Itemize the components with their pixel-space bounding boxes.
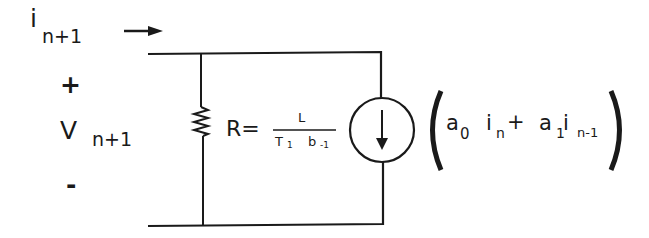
- current-i-n: i: [486, 111, 492, 135]
- right-parenthesis: [611, 91, 620, 170]
- coefficient-a0-subscript: 0: [460, 125, 470, 143]
- denominator-T-subscript: 1: [287, 140, 293, 150]
- denominator-T: T: [275, 134, 283, 149]
- voltage-symbol: V: [60, 116, 77, 145]
- bottom-wire: [148, 162, 383, 226]
- plus-operator: +: [507, 110, 525, 134]
- top-wire: [148, 52, 381, 98]
- current-i-nm1-subscript: n-1: [577, 125, 598, 140]
- current-symbol: i: [30, 4, 37, 33]
- current-arrow-icon: [124, 26, 163, 36]
- denominator-b-subscript: -1: [320, 140, 329, 150]
- coefficient-a1: a: [539, 111, 552, 135]
- voltage-subscript: n+1: [92, 128, 132, 150]
- denominator-b: b: [308, 134, 316, 149]
- coefficient-a0: a: [446, 111, 459, 135]
- current-subscript: n+1: [42, 25, 82, 47]
- minus-sign: -: [66, 170, 76, 199]
- current-i-nm1: i: [563, 111, 569, 135]
- resistor-lhs: R=: [226, 116, 260, 141]
- resistor-icon: [194, 54, 208, 225]
- fraction-numerator: L: [298, 110, 305, 125]
- current-i-n-subscript: n: [496, 125, 505, 141]
- left-parenthesis: [433, 91, 442, 170]
- plus-sign: +: [60, 70, 81, 99]
- current-source-icon: [350, 98, 414, 162]
